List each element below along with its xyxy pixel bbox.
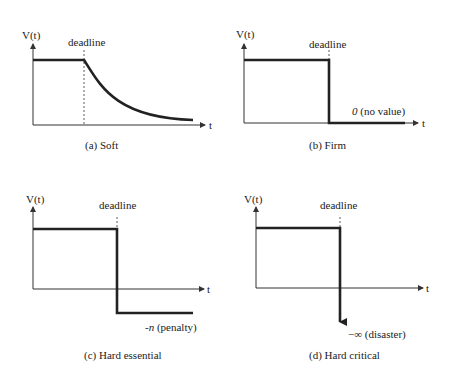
x-axis-label: t — [207, 283, 210, 295]
panel-caption: (b) Firm — [309, 139, 346, 151]
annotation-penalty: -n (penalty) — [145, 321, 197, 333]
panel-d-hard-critical — [256, 207, 423, 322]
panel-c-hard-essential — [33, 207, 204, 313]
x-axis-label: t — [426, 282, 429, 294]
x-axis-label: t — [209, 119, 212, 131]
value-curve — [33, 60, 193, 120]
deadline-label: deadline — [320, 199, 357, 211]
annotation-no-value: 0 (no value) — [352, 105, 405, 117]
annotation-disaster: −∞ (disaster) — [348, 328, 406, 340]
x-axis-label: t — [422, 117, 425, 129]
y-axis-label: V(t) — [244, 193, 262, 205]
deadline-label: deadline — [99, 199, 136, 211]
y-axis-label: V(t) — [22, 29, 40, 41]
value-curve — [256, 228, 340, 322]
y-axis-label: V(t) — [26, 193, 44, 205]
deadline-label: deadline — [309, 38, 346, 50]
deadline-value-diagrams — [0, 0, 457, 382]
panel-caption: (c) Hard essential — [84, 349, 162, 361]
deadline-label: deadline — [68, 36, 105, 48]
panel-caption: (d) Hard critical — [309, 349, 380, 361]
value-curve — [33, 229, 193, 313]
y-axis-label: V(t) — [236, 28, 254, 40]
panel-a-soft — [33, 44, 205, 125]
panel-caption: (a) Soft — [85, 139, 118, 151]
